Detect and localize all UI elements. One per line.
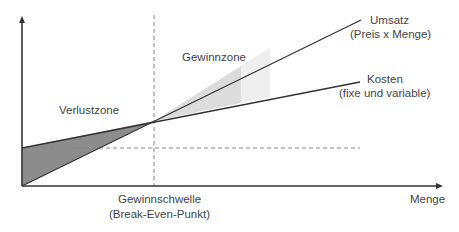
- umsatz-label: Umsatz: [370, 14, 409, 26]
- x-axis-label: Menge: [410, 193, 445, 205]
- profit-area: [154, 66, 241, 121]
- umsatz-line: [22, 20, 361, 186]
- break-even-sublabel: (Break-Even-Punkt): [109, 208, 210, 220]
- y-axis-arrow-icon: [19, 16, 25, 23]
- break-even-label: Gewinnschwelle: [118, 193, 201, 205]
- x-axis-arrow-icon: [436, 183, 443, 189]
- kosten-sublabel: (fixe und variable): [339, 87, 431, 99]
- umsatz-sublabel: (Preis x Menge): [350, 28, 431, 40]
- break-even-diagram: Verlustzone Gewinnzone Umsatz (Preis x M…: [0, 0, 459, 232]
- gewinnzone-label: Gewinnzone: [182, 51, 246, 63]
- verlustzone-label: Verlustzone: [59, 104, 119, 116]
- kosten-label: Kosten: [367, 73, 403, 85]
